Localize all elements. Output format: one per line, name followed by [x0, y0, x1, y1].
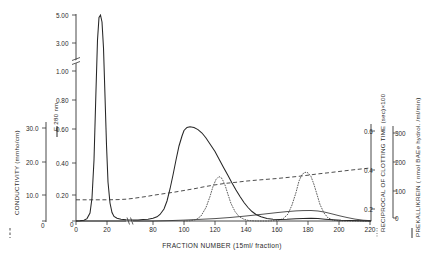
ticks-prekallikrein: [393, 133, 397, 218]
series-e280: [76, 15, 371, 221]
ticks-e280: [72, 15, 76, 221]
ticks-conductivity: [42, 128, 46, 221]
series-clotting-time: [184, 172, 371, 221]
ticks-clotting: [371, 131, 375, 209]
series-conductivity: [76, 168, 371, 200]
plot-canvas: [0, 0, 437, 259]
chromatogram-figure: CONDUCTIVITY (mmho/cm) E 280 nm RECIPROC…: [0, 0, 437, 259]
ticks-xaxis: [76, 221, 370, 225]
